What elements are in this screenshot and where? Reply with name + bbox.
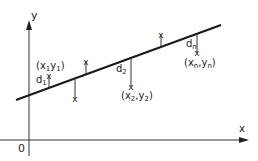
x-axis-arrow-icon (239, 137, 249, 143)
point-marker-icon: x (83, 57, 89, 67)
point-2-label: (x2,y2) (121, 91, 153, 103)
point-marker-icon: x (158, 30, 164, 40)
y-axis-label: y (31, 10, 38, 21)
point-marker-icon: x (72, 94, 78, 104)
x-axis-label: x (239, 124, 245, 134)
point-n-label: (xn,yn) (184, 58, 216, 70)
point-1-label: (x1y1) (36, 61, 65, 73)
residual-1-label: d1 (36, 75, 47, 87)
origin-label: 0 (18, 143, 25, 154)
residual-2-label: d2 (116, 64, 127, 76)
residual-n-label: dn (186, 39, 197, 51)
